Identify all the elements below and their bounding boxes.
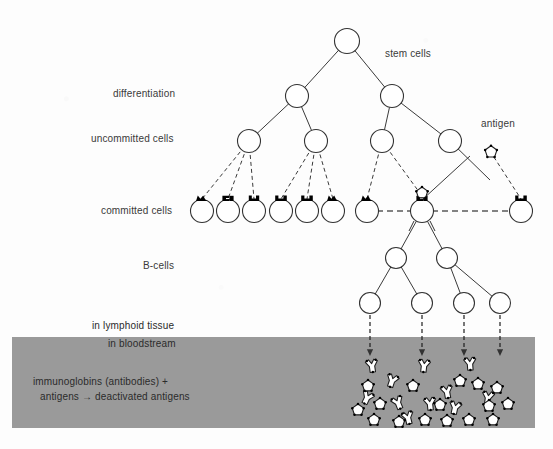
label-reaction-line-1: immunoglobins (antibodies) +	[33, 376, 168, 387]
committed-cell	[322, 200, 345, 223]
label-in-bloodstream: in bloodstream	[108, 338, 176, 349]
committed-cell	[510, 200, 533, 223]
committed-cell	[296, 200, 319, 223]
uncommitted-cell	[238, 130, 261, 153]
stem-cell	[335, 29, 360, 54]
label-uncommitted-cells: uncommitted cells	[91, 133, 174, 144]
label-committed-cells: committed cells	[101, 205, 172, 216]
committed-cell	[191, 200, 214, 223]
receptor-icon	[275, 196, 287, 201]
committed-cell	[270, 200, 293, 223]
label-in-lymphoid-tissue: in lymphoid tissue	[92, 320, 174, 331]
lineage-edges-solid	[249, 41, 500, 303]
b-cell	[437, 248, 458, 269]
b-cell	[412, 293, 433, 314]
b-cell	[490, 293, 511, 314]
uncommitted-cell	[371, 130, 394, 153]
label-antigen: antigen	[481, 118, 515, 129]
b-cell	[386, 248, 407, 269]
differentiating-cell	[286, 85, 309, 108]
label-differentiation: differentiation	[113, 88, 175, 99]
label-stem-cells: stem cells	[385, 48, 431, 59]
committed-cell	[217, 200, 240, 223]
b-cell	[454, 293, 475, 314]
committed-cell	[243, 200, 266, 223]
lineage-edge	[422, 156, 470, 200]
uncommitted-cell	[305, 130, 328, 153]
antigen-markers	[415, 145, 498, 200]
uncommitted-cell	[439, 130, 462, 153]
cell-receptors	[196, 195, 527, 201]
diagram-canvas: stem cells differentiation uncommitted c…	[0, 0, 553, 449]
label-b-cells: B-cells	[143, 260, 174, 271]
receptor-icon	[222, 196, 233, 201]
antigen-icon-free	[484, 145, 498, 159]
committed-cell	[356, 200, 379, 223]
committed-cell	[411, 200, 434, 223]
b-cell	[360, 293, 381, 314]
differentiating-cell	[381, 85, 404, 108]
label-reaction-line-2: antigens → deactivated antigens	[40, 391, 190, 402]
